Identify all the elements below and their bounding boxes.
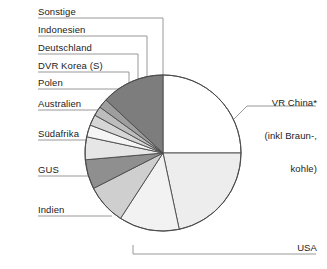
leader-line-polen [38, 89, 120, 95]
pie-label-vr-china-line2: (inkl Braun-, [225, 130, 317, 141]
pie-label-dvr-korea: DVR Korea (S) [38, 60, 103, 71]
pie-label-indonesien: Indonesien [38, 24, 85, 35]
pie-label-australien: Australien [38, 98, 81, 109]
pie-label-vr-china-line1: VR China* [225, 97, 317, 108]
pie-label-suedafrika: Südafrika [38, 128, 79, 139]
pie-label-indien: Indien [38, 204, 64, 215]
pie-slices [85, 75, 241, 231]
pie-label-vr-china-line3: kohle) [225, 163, 317, 174]
pie-label-polen: Polen [38, 77, 63, 88]
pie-label-gus: GUS [38, 164, 59, 175]
pie-label-sonstige: Sonstige [38, 6, 76, 17]
pie-label-vr-china: VR China* (inkl Braun-, kohle) [225, 75, 317, 196]
pie-chart-figure: Sonstige Indonesien Deutschland DVR Kore… [0, 0, 327, 269]
pie-label-deutschland: Deutschland [38, 42, 92, 53]
pie-label-usa: USA [257, 242, 317, 253]
